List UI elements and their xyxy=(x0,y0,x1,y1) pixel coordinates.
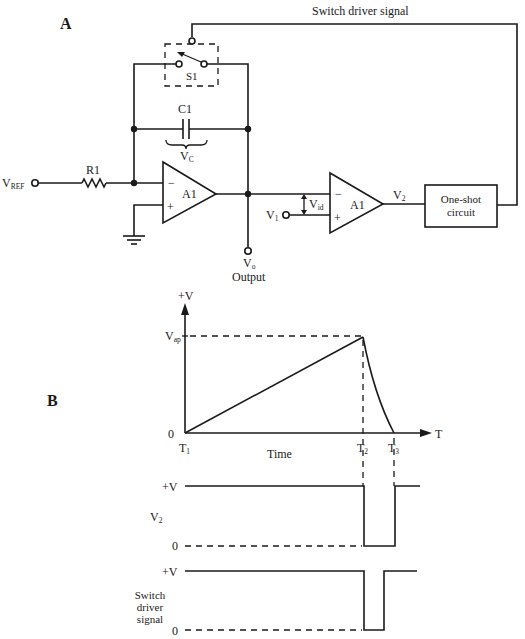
resistor-label: R1 xyxy=(86,163,100,177)
switch-graph-name-line3: signal xyxy=(137,613,163,625)
switch-high-label: +V xyxy=(162,565,178,579)
v1-terminal xyxy=(283,212,289,218)
vid-label: Vid xyxy=(309,197,324,212)
x-axis-arrow-icon xyxy=(420,429,432,437)
comparator-opamp-label: A1 xyxy=(350,198,365,212)
vref-label: VREF xyxy=(2,176,24,191)
integrator-minus: − xyxy=(168,176,175,190)
output-label: Output xyxy=(232,270,266,284)
ramp-y-top-label: +V xyxy=(178,289,194,303)
switch-terminal-right xyxy=(201,61,207,67)
vo-terminal xyxy=(245,248,251,254)
vc-brace xyxy=(166,140,207,149)
panel-a-label: A xyxy=(60,15,72,32)
one-shot-line1: One-shot xyxy=(441,193,481,205)
panel-b-label: B xyxy=(47,392,58,409)
comparator-minus: − xyxy=(335,187,342,201)
one-shot-line2: circuit xyxy=(447,206,475,218)
vc-label: VC xyxy=(180,149,194,164)
y-axis-arrow-icon xyxy=(181,303,189,315)
right-feedback-wire xyxy=(207,64,248,251)
switch-driver-waveform xyxy=(185,571,417,630)
integrator-plus: + xyxy=(167,200,174,214)
x-axis-label: T xyxy=(435,427,443,441)
ramp-origin-label: 0 xyxy=(168,427,174,441)
x-axis-title: Time xyxy=(267,447,292,461)
integrating-adc-figure: A Switch driver signal S1 C1 VC VREF R1 xyxy=(0,0,525,639)
switch-graph-name-line1: Switch xyxy=(135,589,166,601)
t2-label: T2 xyxy=(357,441,368,456)
v2-graph-name: V2 xyxy=(150,510,163,525)
vap-label: Vap xyxy=(165,329,181,344)
v2-high-label: +V xyxy=(162,480,178,494)
v2-label: V2 xyxy=(393,188,406,203)
resistor-r1 xyxy=(38,179,163,187)
switch-control-terminal xyxy=(189,38,195,44)
switch-low-label: 0 xyxy=(172,624,178,638)
comparator-plus: + xyxy=(334,211,341,225)
v2-low-label: 0 xyxy=(172,539,178,553)
ramp-graph xyxy=(181,303,432,486)
v2-waveform xyxy=(185,486,420,546)
vref-terminal xyxy=(32,180,38,186)
capacitor-c1 xyxy=(131,119,251,139)
switch-driver-signal-label: Switch driver signal xyxy=(312,4,409,18)
integrator-opamp xyxy=(123,162,330,244)
switch-driver-feedback-line xyxy=(192,24,517,205)
switch-graph-name-line2: driver xyxy=(137,601,164,613)
switch-label: S1 xyxy=(186,70,198,82)
vo-label: Vo xyxy=(243,256,256,271)
t3-label: T3 xyxy=(388,441,399,456)
v1-label: V1 xyxy=(266,208,279,223)
t1-label: T1 xyxy=(179,441,190,456)
switch-terminal-left xyxy=(176,61,182,67)
capacitor-label: C1 xyxy=(178,102,192,116)
integrator-opamp-label: A1 xyxy=(182,187,197,201)
